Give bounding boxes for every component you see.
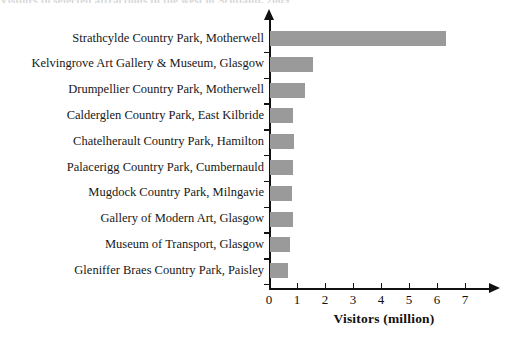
category-label: Strathcylde Country Park, Motherwell bbox=[0, 32, 264, 45]
y-axis-tick bbox=[264, 181, 270, 182]
category-axis-labels: Strathcylde Country Park, MotherwellKelv… bbox=[0, 31, 264, 291]
x-axis-title: Visitors (million) bbox=[269, 311, 499, 327]
bar bbox=[270, 134, 294, 149]
bar-series bbox=[270, 31, 510, 289]
bar bbox=[270, 83, 305, 98]
x-axis-tick bbox=[465, 283, 466, 290]
y-axis-tick bbox=[264, 103, 270, 104]
y-axis-tick bbox=[264, 78, 270, 79]
x-axis-tick bbox=[437, 283, 438, 290]
x-axis-tick-label: 0 bbox=[257, 292, 281, 308]
bar bbox=[270, 31, 446, 46]
x-axis-tick-label: 1 bbox=[285, 292, 309, 308]
category-label: Gleniffer Braes Country Park, Paisley bbox=[0, 264, 264, 277]
category-label: Calderglen Country Park, East Kilbride bbox=[0, 109, 264, 122]
y-axis-tick bbox=[264, 232, 270, 233]
y-axis-tick bbox=[264, 258, 270, 259]
category-label: Palacerigg Country Park, Cumbernauld bbox=[0, 161, 264, 174]
y-axis-tick bbox=[264, 52, 270, 53]
plot-area: Strathcylde Country Park, MotherwellKelv… bbox=[0, 0, 513, 337]
x-axis-tick bbox=[325, 283, 326, 290]
bar bbox=[270, 237, 290, 252]
x-axis-tick bbox=[297, 283, 298, 290]
bar bbox=[270, 263, 288, 278]
x-axis-tick-label: 7 bbox=[453, 292, 477, 308]
x-axis-line bbox=[269, 288, 491, 290]
bar bbox=[270, 108, 293, 123]
x-axis-tick-label: 4 bbox=[369, 292, 393, 308]
y-axis-tick bbox=[264, 129, 270, 130]
bar-chart: Visitors to selected attractions in the … bbox=[0, 0, 513, 337]
bar bbox=[270, 186, 292, 201]
x-axis-tick-label: 3 bbox=[341, 292, 365, 308]
category-label: Museum of Transport, Glasgow bbox=[0, 238, 264, 251]
y-axis-tick bbox=[264, 155, 270, 156]
x-axis-tick-label: 2 bbox=[313, 292, 337, 308]
category-label: Mugdock Country Park, Milngavie bbox=[0, 186, 264, 199]
category-label: Drumpellier Country Park, Motherwell bbox=[0, 83, 264, 96]
bar bbox=[270, 212, 293, 227]
category-label: Chatelherault Country Park, Hamilton bbox=[0, 135, 264, 148]
x-axis-arrowhead bbox=[489, 283, 500, 293]
bar bbox=[270, 160, 293, 175]
x-axis-tick bbox=[381, 283, 382, 290]
x-axis-tick bbox=[353, 283, 354, 290]
category-label: Kelvingrove Art Gallery & Museum, Glasgo… bbox=[0, 57, 264, 70]
x-axis-tick-label: 5 bbox=[397, 292, 421, 308]
y-axis-tick bbox=[264, 207, 270, 208]
category-label: Gallery of Modern Art, Glasgow bbox=[0, 212, 264, 225]
y-axis-tick bbox=[264, 284, 270, 285]
bar bbox=[270, 57, 313, 72]
x-axis-tick-label: 6 bbox=[425, 292, 449, 308]
x-axis-tick bbox=[409, 283, 410, 290]
